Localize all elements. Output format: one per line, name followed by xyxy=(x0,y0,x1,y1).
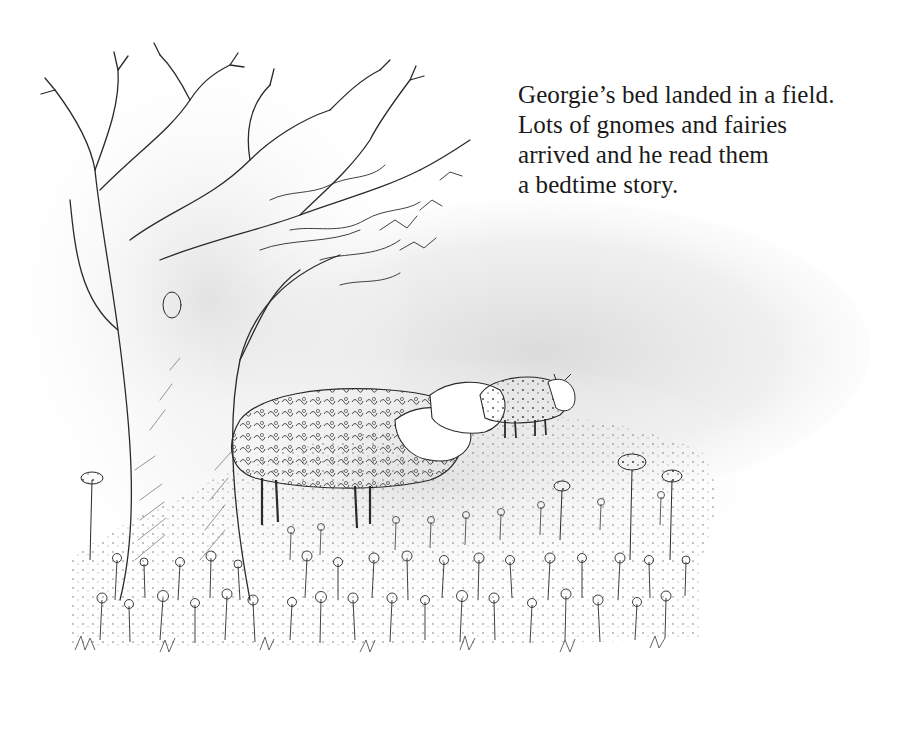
caption-line-2: Lots of gnomes and fairies xyxy=(518,110,888,140)
caption-line-1: Georgie’s bed landed in a field. xyxy=(518,80,888,110)
story-caption: Georgie’s bed landed in a field. Lots of… xyxy=(518,80,888,200)
storybook-page: Georgie’s bed landed in a field. Lots of… xyxy=(0,0,906,729)
caption-line-4: a bedtime story. xyxy=(518,170,888,200)
caption-line-3: arrived and he read them xyxy=(518,140,888,170)
